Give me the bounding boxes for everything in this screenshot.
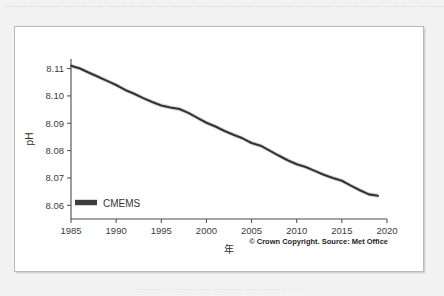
x-tick-label-2005: 2005 xyxy=(241,225,262,236)
x-tick-label-1985: 1985 xyxy=(60,225,81,236)
y-axis-title: pH xyxy=(24,133,35,146)
y-tick-label-8.09: 8.09 xyxy=(46,118,65,129)
copyright-credit: © Crown Copyright. Source: Met Office xyxy=(249,237,388,246)
x-tick-label-2010: 2010 xyxy=(286,225,307,236)
x-tick-label-2020: 2020 xyxy=(376,225,397,236)
y-tick-label-8.10: 8.10 xyxy=(46,90,65,101)
x-tick-label-1995: 1995 xyxy=(151,225,172,236)
plot-area: 8.068.078.088.098.108.111985199019952000… xyxy=(15,27,425,273)
legend-label-cmems: CMEMS xyxy=(103,198,141,209)
x-tick-label-1990: 1990 xyxy=(106,225,127,236)
legend-swatch-cmems xyxy=(75,200,97,205)
y-tick-label-8.07: 8.07 xyxy=(46,172,65,183)
x-tick-label-2015: 2015 xyxy=(331,225,352,236)
x-axis-title: 年 xyxy=(224,243,234,255)
y-tick-label-8.06: 8.06 xyxy=(46,200,65,211)
y-tick-label-8.11: 8.11 xyxy=(46,63,64,74)
y-tick-label-8.08: 8.08 xyxy=(46,145,65,156)
ocean-ph-line-chart: 8.068.078.088.098.108.111985199019952000… xyxy=(15,27,425,273)
clipped-text-above-figure: — —— — ——— —— — —— ——— — —— —— ——— — ———… xyxy=(0,0,444,9)
clipped-text-below-figure: ———— ——— —— ———— —— ——— —— xyxy=(0,284,440,294)
chart-figure-panel: 8.068.078.088.098.108.111985199019952000… xyxy=(14,26,424,272)
x-tick-label-2000: 2000 xyxy=(196,225,217,236)
